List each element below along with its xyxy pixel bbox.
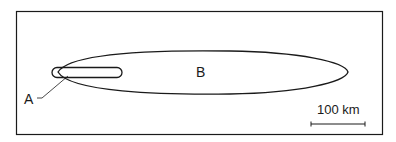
leader-line-a: [37, 76, 68, 98]
scale-bar-label: 100 km: [317, 103, 360, 116]
label-b: B: [196, 65, 205, 79]
label-a: A: [24, 92, 33, 106]
